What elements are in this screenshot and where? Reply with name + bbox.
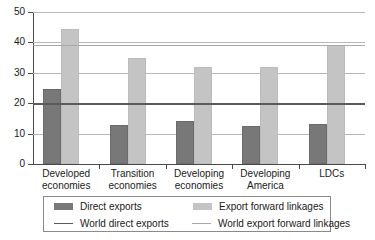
y-tick-label: 40 <box>0 37 25 47</box>
y-tick-label: 30 <box>0 68 25 78</box>
legend-item-world-direct-exports: World direct exports <box>44 215 192 232</box>
reference-line <box>33 45 365 46</box>
bar <box>61 29 79 164</box>
category-label-line: Developing <box>166 168 232 180</box>
bar-group <box>176 12 212 164</box>
bar <box>309 124 327 164</box>
legend-row-bars: Direct exports Export forward linkages <box>44 198 330 215</box>
bar-group <box>110 12 146 164</box>
chart-legend: Direct exports Export forward linkages W… <box>43 196 331 232</box>
line-swatch-light-icon <box>192 223 211 224</box>
category-label: Developingeconomies <box>166 168 232 191</box>
x-tick-mark <box>365 164 366 169</box>
bar-group <box>309 12 345 164</box>
legend-label: World export forward linkages <box>218 218 350 229</box>
category-label-line: economies <box>99 180 165 192</box>
category-label: DevelopingAmerica <box>232 168 298 191</box>
bar <box>128 58 146 164</box>
y-tick-label: 10 <box>0 129 25 139</box>
y-tick-label: 0 <box>0 159 25 169</box>
category-label: Transitioneconomies <box>99 168 165 191</box>
bar-swatch-dark-icon <box>54 203 73 210</box>
reference-line <box>33 103 365 105</box>
category-label: Developedeconomies <box>33 168 99 191</box>
category-label-line: Developed <box>33 168 99 180</box>
bar-group <box>43 12 79 164</box>
bar <box>43 89 61 164</box>
bar <box>242 126 260 164</box>
legend-label: Direct exports <box>80 201 142 212</box>
legend-item-direct-exports: Direct exports <box>44 198 193 215</box>
legend-item-world-export-forward-linkages: World export forward linkages <box>192 215 330 232</box>
bar <box>194 67 212 164</box>
y-tick-label: 50 <box>0 7 25 17</box>
plot-area <box>33 12 365 164</box>
bar <box>260 67 278 164</box>
category-label-line: Transition <box>99 168 165 180</box>
y-tick-label: 20 <box>0 98 25 108</box>
category-label: LDCs <box>299 168 365 180</box>
category-label-line: economies <box>33 180 99 192</box>
legend-item-export-forward-linkages: Export forward linkages <box>193 198 330 215</box>
bar <box>176 121 194 164</box>
category-label-line: economies <box>166 180 232 192</box>
bar-chart: 01020304050 DevelopedeconomiesTransition… <box>0 0 375 240</box>
bar-swatch-light-icon <box>193 203 212 210</box>
legend-label: World direct exports <box>80 218 169 229</box>
category-label-line: Developing <box>232 168 298 180</box>
line-swatch-dark-icon <box>54 223 73 224</box>
legend-row-lines: World direct exports World export forwar… <box>44 215 330 232</box>
x-axis-line <box>33 164 366 165</box>
bar <box>110 125 128 164</box>
legend-label: Export forward linkages <box>219 201 324 212</box>
category-label-line: LDCs <box>299 168 365 180</box>
bar-group <box>242 12 278 164</box>
category-label-line: America <box>232 180 298 192</box>
y-tick-mark <box>28 164 33 165</box>
